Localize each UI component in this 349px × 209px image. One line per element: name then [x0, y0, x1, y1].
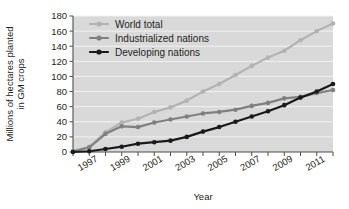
x-tick-label-2001: 2001 [141, 153, 165, 173]
y-axis-title-line1: Millions of hectares planted [4, 26, 15, 141]
y-tick-label-160: 160 [51, 26, 67, 37]
data-point-0-2000 [136, 116, 141, 121]
x-tick-label-1999: 1999 [108, 153, 132, 173]
data-point-0-2001 [152, 110, 157, 115]
y-tick-label-80: 80 [56, 86, 67, 97]
data-point-1-2007 [249, 104, 254, 109]
x-tick-label-1997: 1997 [76, 153, 100, 173]
data-point-0-2003 [184, 98, 189, 103]
data-point-0-2011 [314, 29, 319, 34]
data-point-1-2012 [331, 88, 336, 93]
y-tick-label-60: 60 [56, 101, 67, 112]
data-point-2-1999 [119, 144, 124, 149]
y-tick-label-120: 120 [51, 56, 67, 67]
data-point-2-2012 [331, 82, 336, 87]
data-point-2-2000 [136, 141, 141, 146]
data-point-2-1997 [87, 149, 92, 154]
y-tick-label-100: 100 [51, 71, 67, 82]
y-tick-label-40: 40 [56, 116, 67, 127]
data-point-2-2002 [168, 138, 173, 143]
data-point-1-2004 [201, 111, 206, 116]
y-tick-label-20: 20 [56, 131, 67, 142]
legend-swatch-marker-0 [96, 21, 101, 26]
data-point-0-2012 [331, 21, 336, 26]
legend-swatch-marker-1 [96, 35, 101, 40]
x-tick-label-2005: 2005 [206, 153, 230, 173]
legend-swatch-marker-2 [96, 49, 101, 54]
x-axis-title: Year [193, 191, 212, 202]
data-point-2-2006 [233, 119, 238, 124]
data-point-1-1998 [103, 132, 108, 137]
data-point-0-2006 [233, 73, 238, 78]
data-point-2-2009 [282, 103, 287, 108]
data-point-1-2006 [233, 107, 238, 112]
x-tick-label-2011: 2011 [303, 153, 326, 173]
y-axis-title-line2: in GM crops [15, 58, 26, 109]
y-tick-label-0: 0 [62, 146, 67, 157]
data-point-0-2008 [266, 55, 271, 60]
x-tick-label-2009: 2009 [271, 153, 295, 173]
data-point-0-2009 [282, 48, 287, 53]
data-point-1-2000 [136, 125, 141, 130]
data-point-0-2002 [168, 105, 173, 110]
data-point-2-2004 [201, 129, 206, 134]
data-point-2-2011 [314, 89, 319, 94]
data-point-1-1999 [119, 124, 124, 129]
data-point-2-2001 [152, 140, 157, 145]
data-point-1-2003 [184, 114, 189, 119]
data-point-1-2005 [217, 110, 222, 115]
y-tick-label-180: 180 [51, 10, 67, 21]
data-point-0-2007 [249, 64, 254, 69]
gm-crops-line-chart: 0204060801001201401601801997199920012003… [0, 0, 349, 209]
data-point-2-1996 [71, 150, 76, 155]
legend-label-0: World total [115, 19, 163, 30]
data-point-0-2005 [217, 82, 222, 87]
chart-canvas: 0204060801001201401601801997199920012003… [0, 0, 349, 209]
data-point-1-2008 [266, 101, 271, 106]
data-point-1-2001 [152, 120, 157, 125]
data-point-0-2004 [201, 89, 206, 94]
data-point-2-2007 [249, 114, 254, 119]
data-point-2-2003 [184, 135, 189, 140]
legend-label-1: Industrialized nations [115, 33, 209, 44]
data-point-0-2010 [298, 38, 303, 43]
legend-label-2: Developing nations [115, 47, 200, 58]
data-point-2-2008 [266, 109, 271, 114]
data-point-1-2002 [168, 117, 173, 122]
y-tick-label-140: 140 [51, 41, 67, 52]
data-point-2-2010 [298, 95, 303, 100]
x-tick-label-2007: 2007 [238, 153, 262, 173]
data-point-2-2005 [217, 125, 222, 130]
data-point-2-1998 [103, 147, 108, 152]
data-point-1-2009 [282, 96, 287, 101]
x-tick-label-2003: 2003 [173, 153, 197, 173]
